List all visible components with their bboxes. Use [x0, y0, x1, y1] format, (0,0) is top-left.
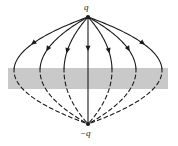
field-line-segment-solid — [14, 17, 88, 68]
negative-charge-marker — [86, 122, 90, 126]
field-direction-arrowhead — [64, 48, 70, 55]
field-line-segment-solid — [40, 17, 88, 68]
field-line-segment-solid — [88, 17, 162, 68]
positive-charge-marker — [86, 15, 90, 19]
field-direction-arrowhead — [86, 46, 91, 51]
field-direction-arrowhead — [106, 48, 112, 55]
dipole-field-diagram: q −q — [0, 0, 178, 146]
field-line-canvas — [0, 0, 178, 146]
field-line-segment-solid — [88, 17, 136, 68]
negative-charge-label: −q — [80, 129, 91, 138]
positive-charge-label: q — [84, 3, 89, 12]
